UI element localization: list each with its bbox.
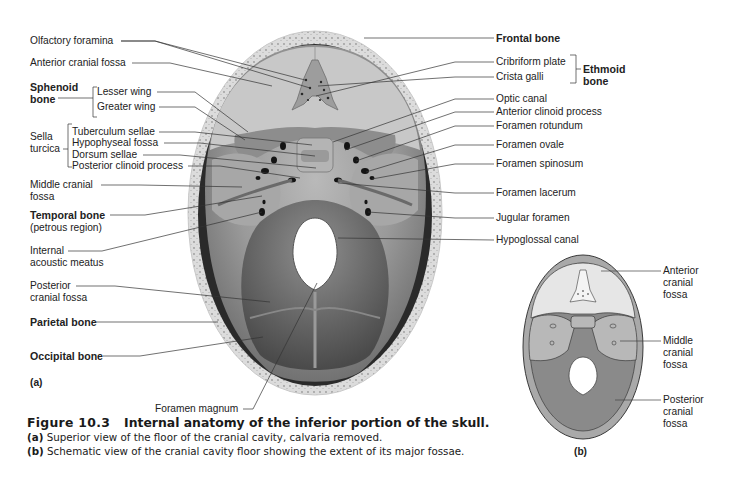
skull-superior-view: [188, 31, 442, 395]
label-hypophyseal-fossa: Hypophyseal fossa: [72, 137, 158, 149]
caption-title-row: Figure 10.3Internal anatomy of the infer…: [27, 415, 489, 430]
label-ethmoid-bone-line1: Ethmoid: [583, 63, 625, 75]
b-label-anterior-line1: Anterior: [663, 265, 699, 277]
label-sphenoid-bone-line2: bone: [30, 93, 55, 105]
label-sphenoid-bone-line1: Sphenoid: [30, 81, 78, 93]
figure-caption: Figure 10.3Internal anatomy of the infer…: [27, 415, 489, 458]
label-greater-wing: Greater wing: [97, 101, 155, 113]
skull-schematic: [523, 255, 661, 439]
b-label-anterior-line2: cranial: [663, 277, 693, 289]
caption-text-a: Superior view of the floor of the crania…: [47, 431, 383, 443]
b-label-posterior-line2: cranial: [663, 406, 693, 418]
caption-line-a: (a) Superior view of the floor of the cr…: [27, 430, 489, 444]
b-label-posterior-line1: Posterior: [663, 394, 704, 406]
label-jugular-foramen: Jugular foramen: [496, 212, 570, 224]
label-internal-acoustic-meatus-line2: acoustic meatus: [30, 257, 104, 269]
label-middle-cranial-fossa-line2: fossa: [30, 191, 54, 203]
label-cribriform-plate: Cribriform plate: [496, 56, 566, 68]
label-anterior-clinoid-process: Anterior clinoid process: [496, 106, 602, 118]
label-temporal-bone: Temporal bone: [30, 209, 105, 221]
label-internal-acoustic-meatus-line1: Internal: [30, 245, 64, 257]
label-foramen-spinosum: Foramen spinosum: [496, 158, 583, 170]
b-label-middle-line2: cranial: [663, 347, 693, 359]
label-olfactory-foramina: Olfactory foramina: [30, 35, 113, 47]
label-sella-turcica-line2: turcica: [30, 143, 60, 155]
label-middle-cranial-fossa-line1: Middle cranial: [30, 179, 93, 191]
caption-tag-a: (a): [27, 431, 43, 443]
label-foramen-magnum: Foramen magnum: [155, 403, 238, 415]
label-parietal-bone: Parietal bone: [30, 316, 97, 328]
label-ethmoid-bone-line2: bone: [583, 75, 608, 87]
figure-title: Internal anatomy of the inferior portion…: [124, 415, 489, 430]
label-optic-canal: Optic canal: [496, 93, 547, 105]
label-foramen-ovale: Foramen ovale: [496, 139, 564, 151]
label-posterior-cranial-fossa-line1: Posterior: [30, 280, 71, 292]
panel-a-tag: (a): [30, 377, 42, 388]
label-frontal-bone: Frontal bone: [496, 32, 560, 44]
caption-text-b: Schematic view of the cranial cavity flo…: [47, 445, 464, 457]
caption-line-b: (b) Schematic view of the cranial cavity…: [27, 444, 489, 458]
label-crista-galli: Crista galli: [496, 71, 544, 83]
b-label-middle-line3: fossa: [663, 359, 687, 371]
label-anterior-cranial-fossa: Anterior cranial fossa: [30, 57, 126, 69]
figure-number: Figure 10.3: [27, 415, 110, 430]
b-label-posterior-line3: fossa: [663, 418, 687, 430]
caption-tag-b: (b): [27, 445, 44, 457]
label-posterior-cranial-fossa-line2: cranial fossa: [30, 292, 87, 304]
panel-b-tag: (b): [574, 446, 587, 457]
label-foramen-rotundum: Foramen rotundum: [496, 120, 583, 132]
label-sella-turcica-line1: Sella: [30, 131, 53, 143]
label-posterior-clinoid-process: Posterior clinoid process: [72, 160, 183, 172]
label-occipital-bone: Occipital bone: [30, 350, 103, 362]
label-foramen-lacerum: Foramen lacerum: [496, 187, 576, 199]
b-label-anterior-line3: fossa: [663, 289, 687, 301]
label-hypoglossal-canal: Hypoglossal canal: [496, 234, 579, 246]
b-label-middle-line1: Middle: [663, 335, 693, 347]
label-temporal-bone-sub: (petrous region): [30, 222, 102, 234]
label-lesser-wing: Lesser wing: [97, 86, 151, 98]
